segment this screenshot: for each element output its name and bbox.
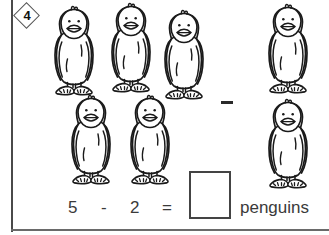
equation-operator: - <box>101 198 107 218</box>
penguin-icon <box>65 93 117 187</box>
unit-label: penguins <box>240 197 309 218</box>
penguin-icon <box>262 97 314 191</box>
penguin-icon <box>158 8 210 102</box>
problem-number-label: 4 <box>13 2 41 30</box>
penguin-icon <box>262 2 314 96</box>
penguin-icon <box>105 1 157 95</box>
minus-sign-icon <box>221 101 233 104</box>
equation-equals: = <box>162 198 172 218</box>
equation-minuend: 5 <box>68 198 77 218</box>
equation-subtrahend: 2 <box>130 198 139 218</box>
answer-input-box[interactable] <box>189 171 231 219</box>
problem-number-badge: 4 <box>13 2 41 30</box>
penguin-icon <box>124 93 176 187</box>
worksheet-page: 4 <box>0 0 329 235</box>
penguin-icon <box>48 4 100 98</box>
page-left-rule <box>11 0 13 232</box>
page-bottom-rule <box>11 229 329 231</box>
